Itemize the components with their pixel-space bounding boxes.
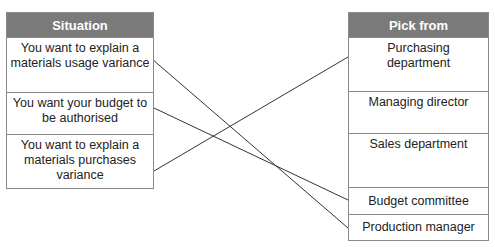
situation-row-purchases[interactable]: You want to explain a materials purchase… [7,135,153,188]
option-purchasing-department[interactable]: Purchasing department [349,38,488,92]
situation-table: Situation You want to explain a material… [6,12,154,189]
pick-from-header: Pick from [349,13,488,38]
situation-row-usage[interactable]: You want to explain a materials usage va… [7,38,153,93]
option-sales-department[interactable]: Sales department [349,134,488,188]
option-budget-committee[interactable]: Budget committee [349,188,488,215]
option-managing-director[interactable]: Managing director [349,92,488,134]
pick-from-table: Pick from Purchasing department Managing… [348,12,489,241]
situation-header: Situation [7,13,153,38]
option-production-manager[interactable]: Production manager [349,215,488,240]
connector-usage-to-production [152,59,348,228]
situation-row-budget[interactable]: You want your budget to be authorised [7,93,153,135]
